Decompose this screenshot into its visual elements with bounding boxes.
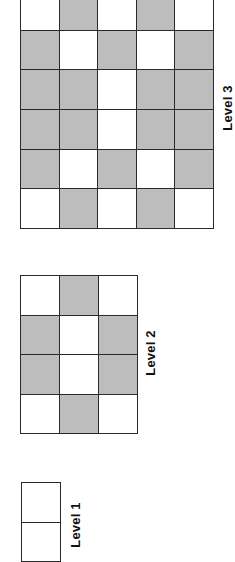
shaded-cell <box>60 70 99 110</box>
shaded-cell <box>21 70 60 110</box>
shaded-cell <box>21 110 60 150</box>
empty-cell <box>98 70 137 110</box>
shaded-cell <box>60 395 99 435</box>
empty-cell <box>99 276 138 316</box>
shaded-cell <box>137 0 176 31</box>
empty-cell <box>175 189 214 229</box>
shaded-cell <box>60 110 99 150</box>
shaded-cell <box>99 316 138 356</box>
shaded-cell <box>137 189 176 229</box>
empty-cell <box>21 189 60 229</box>
empty-cell <box>60 355 99 395</box>
shaded-cell <box>60 0 99 31</box>
shaded-cell <box>137 70 176 110</box>
shaded-cell <box>60 189 99 229</box>
level-1-label: Level 1 <box>68 502 83 548</box>
shaded-cell <box>137 110 176 150</box>
shaded-cell <box>60 276 99 316</box>
shaded-cell <box>99 355 138 395</box>
shaded-cell <box>175 70 214 110</box>
empty-cell <box>60 31 99 71</box>
shaded-cell <box>98 31 137 71</box>
empty-cell <box>137 150 176 190</box>
shaded-cell <box>21 31 60 71</box>
shaded-cell <box>175 150 214 190</box>
empty-cell <box>22 523 61 562</box>
shaded-cell <box>175 110 214 150</box>
empty-cell <box>60 150 99 190</box>
empty-cell <box>99 395 138 435</box>
empty-cell <box>22 483 61 523</box>
empty-cell <box>98 0 137 31</box>
empty-cell <box>60 316 99 356</box>
shaded-cell <box>21 355 60 395</box>
empty-cell <box>21 395 60 435</box>
shaded-cell <box>21 316 60 356</box>
level-3-label: Level 3 <box>220 85 235 131</box>
level-2-grid <box>20 275 138 434</box>
level-3-grid <box>20 0 214 229</box>
shaded-cell <box>21 150 60 190</box>
level-1-grid <box>21 482 61 562</box>
empty-cell <box>175 0 214 31</box>
shaded-cell <box>98 150 137 190</box>
empty-cell <box>98 110 137 150</box>
empty-cell <box>137 31 176 71</box>
empty-cell <box>21 276 60 316</box>
empty-cell <box>98 189 137 229</box>
empty-cell <box>21 0 60 31</box>
level-2-label: Level 2 <box>143 330 158 376</box>
shaded-cell <box>175 31 214 71</box>
